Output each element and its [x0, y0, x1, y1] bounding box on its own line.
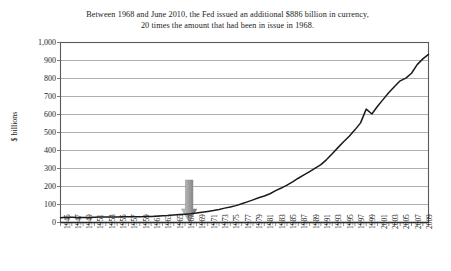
x-tick-1953: 1953: [109, 214, 117, 229]
x-tick-1951: 1951: [97, 214, 105, 229]
x-tick-1965: 1965: [177, 214, 185, 229]
x-tick-1947: 1947: [75, 214, 83, 229]
x-tick-1979: 1979: [256, 214, 264, 229]
x-tick-1975: 1975: [233, 214, 241, 229]
x-tick-1961: 1961: [154, 214, 162, 229]
x-tick-1977: 1977: [245, 214, 253, 229]
x-tick-1967: 1967: [188, 214, 196, 229]
x-tick-2001: 2001: [381, 214, 389, 229]
x-tick-1945: 1945: [64, 214, 72, 229]
x-tick-1989: 1989: [313, 214, 321, 229]
x-tick-1987: 1987: [301, 214, 309, 229]
x-tick-2007: 2007: [415, 214, 423, 229]
x-tick-1985: 1985: [290, 214, 298, 229]
x-tick-1955: 1955: [120, 214, 128, 229]
x-tick-1981: 1981: [267, 214, 275, 229]
x-tick-1949: 1949: [86, 214, 94, 229]
x-axis-tick-labels: 1945194719491951195319551957195919611963…: [0, 0, 451, 271]
x-tick-1969: 1969: [199, 214, 207, 229]
x-tick-1983: 1983: [279, 214, 287, 229]
x-tick-1959: 1959: [143, 214, 151, 229]
x-tick-1993: 1993: [335, 214, 343, 229]
x-tick-2009: 2009: [426, 214, 434, 229]
chart-figure: Between 1968 and June 2010, the Fed issu…: [0, 0, 451, 271]
x-tick-1973: 1973: [222, 214, 230, 229]
x-tick-1971: 1971: [211, 214, 219, 229]
x-tick-1957: 1957: [131, 214, 139, 229]
x-tick-2005: 2005: [403, 214, 411, 229]
x-tick-2003: 2003: [392, 214, 400, 229]
x-tick-1991: 1991: [324, 214, 332, 229]
x-tick-1995: 1995: [347, 214, 355, 229]
x-tick-1997: 1997: [358, 214, 366, 229]
x-tick-1999: 1999: [369, 214, 377, 229]
x-tick-1963: 1963: [165, 214, 173, 229]
